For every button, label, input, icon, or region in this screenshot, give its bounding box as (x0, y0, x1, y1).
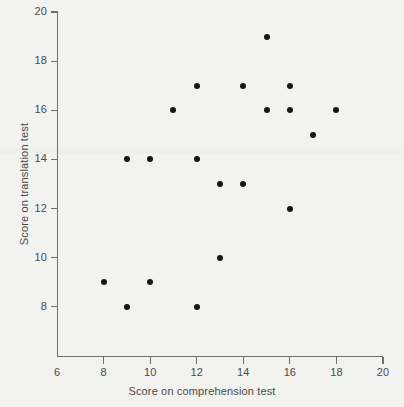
y-axis-title: Score on translation test (18, 94, 30, 274)
data-point (147, 279, 153, 285)
data-point (287, 206, 293, 212)
data-point (287, 107, 293, 113)
data-point (194, 304, 200, 310)
data-point (310, 132, 316, 138)
x-axis-title: Score on comprehension test (0, 385, 404, 397)
data-point (264, 34, 270, 40)
data-point (147, 156, 153, 162)
data-point (240, 181, 246, 187)
scatter-plot: 8101214161820 68101214161820 Score on co… (0, 0, 404, 407)
data-point (217, 255, 223, 261)
data-point (194, 156, 200, 162)
data-point (101, 279, 107, 285)
data-point (333, 107, 339, 113)
data-points-layer (0, 0, 404, 407)
data-point (264, 107, 270, 113)
data-point (124, 156, 130, 162)
data-point (287, 83, 293, 89)
data-point (194, 83, 200, 89)
data-point (124, 304, 130, 310)
data-point (240, 83, 246, 89)
data-point (170, 107, 176, 113)
data-point (217, 181, 223, 187)
